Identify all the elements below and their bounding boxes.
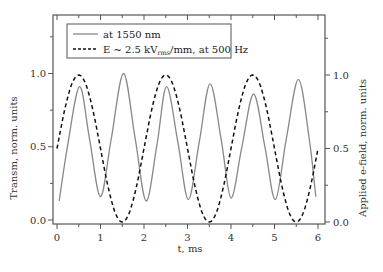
y-axis-left-label: Transm, norm. units: [8, 96, 19, 199]
y-tick-label-left: 1.0: [30, 68, 46, 79]
y-tick-label-right: 0.0: [333, 217, 349, 228]
transmission-line: [59, 73, 316, 201]
legend-label-efield-main: E ~ 2.5 kV: [103, 44, 158, 55]
data-series: [57, 73, 318, 222]
x-axis-label: t, ms: [178, 243, 203, 254]
legend-label-transmission: at 1550 nm: [103, 29, 161, 40]
y-tick-label-right: 1.0: [333, 70, 349, 81]
y-tick-label-right: 0.5: [333, 143, 349, 154]
chart-canvas: 01234560.00.51.00.00.51.0 at 1550 nm E ~…: [0, 0, 383, 272]
y-tick-label-left: 0.0: [30, 215, 46, 226]
x-tick-label: 3: [184, 232, 190, 243]
legend-label-efield-rest: /mm, at 500 Hz: [170, 44, 248, 55]
y-tick-label-left: 0.5: [30, 141, 46, 152]
legend: at 1550 nm E ~ 2.5 kVrms/mm, at 500 Hz: [67, 24, 248, 58]
x-tick-label: 2: [141, 232, 147, 243]
x-tick-label: 1: [97, 232, 103, 243]
legend-label-efield-sub: rms: [157, 49, 170, 57]
x-tick-label: 5: [271, 232, 277, 243]
x-tick-label: 4: [228, 232, 234, 243]
x-tick-label: 0: [54, 232, 60, 243]
x-tick-label: 6: [315, 232, 321, 243]
y-axis-right-label: Applied e-field, norm. units: [357, 79, 368, 218]
efield-line: [57, 75, 318, 222]
